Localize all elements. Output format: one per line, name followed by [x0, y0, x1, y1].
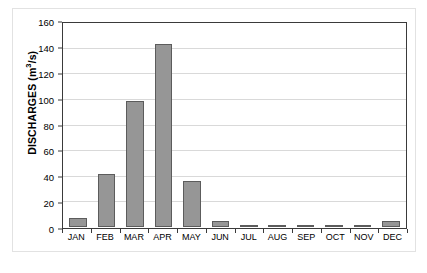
x-axis-tick-label-jul: JUL: [235, 232, 264, 242]
bar-slot: [121, 24, 149, 227]
x-axis-tick-label-jun: JUN: [206, 232, 235, 242]
x-axis-tick-label-oct: OCT: [321, 232, 350, 242]
y-axis-tick-label: 60: [43, 146, 54, 157]
x-axis-tick-label-feb: FEB: [91, 232, 120, 242]
bar-jan[interactable]: [69, 218, 87, 227]
bar-slot: [348, 24, 376, 227]
bar-jul[interactable]: [240, 225, 258, 227]
bar-dec[interactable]: [382, 221, 400, 227]
bar-series: [64, 24, 405, 227]
bar-slot: [178, 24, 206, 227]
bar-apr[interactable]: [155, 44, 173, 227]
bar-slot: [92, 24, 120, 227]
bar-slot: [149, 24, 177, 227]
y-axis-tick-label: 100: [38, 94, 54, 105]
bar-slot: [235, 24, 263, 227]
bar-slot: [320, 24, 348, 227]
bar-slot: [64, 24, 92, 227]
bar-slot: [291, 24, 319, 227]
bar-slot: [377, 24, 405, 227]
bar-oct[interactable]: [325, 225, 343, 227]
chart-root: DISCHARGES (m3/s) 020406080100120140160 …: [0, 0, 427, 273]
bar-aug[interactable]: [268, 225, 286, 227]
x-axis-tick-label-apr: APR: [148, 232, 177, 242]
plot-area: [62, 22, 407, 229]
x-axis-tick-label-aug: AUG: [263, 232, 292, 242]
x-axis-tick-label-jan: JAN: [62, 232, 91, 242]
bar-nov[interactable]: [354, 225, 372, 227]
y-axis-tick-labels: 020406080100120140160: [0, 22, 62, 229]
x-axis-tick-label-may: MAY: [177, 232, 206, 242]
y-axis-tick-label: 140: [38, 42, 54, 53]
y-axis-tick-label: 160: [38, 17, 54, 28]
bar-slot: [206, 24, 234, 227]
x-axis-tick-label-sep: SEP: [292, 232, 321, 242]
x-axis-tick-label-mar: MAR: [120, 232, 149, 242]
bar-may[interactable]: [183, 181, 201, 227]
y-axis-tick-label: 20: [43, 198, 54, 209]
y-axis-tick-label: 0: [49, 224, 54, 235]
bar-mar[interactable]: [126, 101, 144, 227]
bar-slot: [263, 24, 291, 227]
y-axis-tick-label: 120: [38, 68, 54, 79]
bar-sep[interactable]: [297, 225, 315, 227]
x-axis-tick-labels: JANFEBMARAPRMAYJUNJULAUGSEPOCTNOVDEC: [62, 232, 407, 242]
bar-jun[interactable]: [212, 221, 230, 227]
bar-feb[interactable]: [98, 174, 116, 227]
y-axis-tick-label: 80: [43, 120, 54, 131]
y-axis-tick-label: 40: [43, 172, 54, 183]
x-axis-tick-label-dec: DEC: [378, 232, 407, 242]
x-axis-tick-label-nov: NOV: [350, 232, 379, 242]
x-axis-tick: [407, 229, 408, 233]
